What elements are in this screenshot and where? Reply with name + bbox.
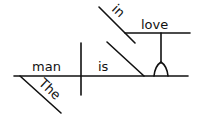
sentence-diagram: man is love The in: [0, 0, 203, 121]
word-preposition: in: [109, 1, 128, 20]
word-modifier: The: [35, 75, 64, 103]
word-object: love: [141, 17, 168, 32]
complement-slash: [107, 42, 144, 76]
word-verb: is: [98, 59, 109, 74]
pedestal-arch: [154, 62, 168, 76]
word-subject: man: [32, 59, 61, 74]
